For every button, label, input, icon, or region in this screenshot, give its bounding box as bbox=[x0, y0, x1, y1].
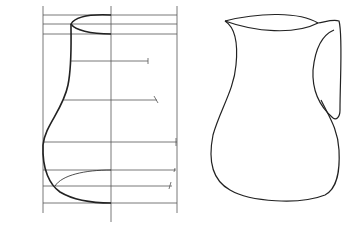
panel-b-pitcher bbox=[211, 14, 341, 201]
pitcher-diagram bbox=[0, 0, 362, 228]
panel-a-profile bbox=[43, 15, 111, 203]
rim-back bbox=[225, 14, 318, 23]
panel-a-construction bbox=[43, 6, 177, 222]
rim-front bbox=[225, 21, 318, 31]
body-outline bbox=[211, 21, 339, 201]
